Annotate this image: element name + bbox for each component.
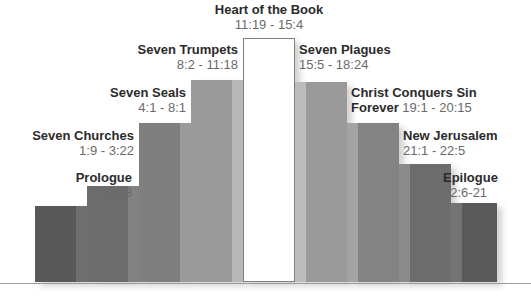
label-seven-seals: Seven Seals 4:1 - 8:1 <box>10 85 186 116</box>
label-epilogue: Epilogue 22:6-21 <box>443 170 531 201</box>
bar-highlight-stripe <box>295 82 306 282</box>
label-christ-conquers-sin-forever: Christ Conquers Sin Forever 19:1 - 20:15 <box>351 85 531 116</box>
bar-highlight-stripe <box>399 164 410 282</box>
label-seven-trumpets-title: Seven Trumpets <box>20 42 238 57</box>
bar-seven-seals <box>139 123 191 282</box>
bar-highlight-stripe <box>347 123 358 282</box>
label-seven-churches-title: Seven Churches <box>0 128 134 143</box>
label-christ-conquers-sin-title: Christ Conquers Sin <box>351 85 531 100</box>
label-seven-seals-title: Seven Seals <box>10 85 186 100</box>
label-seven-seals-ref: 4:1 - 8:1 <box>10 100 186 115</box>
label-seven-plagues-title: Seven Plagues <box>299 42 499 57</box>
bar-highlight-stripe <box>76 206 87 282</box>
bar-seven-plagues <box>295 82 347 282</box>
bar-body <box>243 38 295 282</box>
label-christ-conquers-sin-ref: 19:1 - 20:15 <box>402 100 471 115</box>
chart-baseline <box>0 283 531 284</box>
label-seven-churches-ref: 1:9 - 3:22 <box>0 143 134 158</box>
label-seven-churches: Seven Churches 1:9 - 3:22 <box>0 128 134 159</box>
label-prologue: Prologue 1:1-8 <box>0 170 132 201</box>
chiasm-chart: Prologue 1:1-8 Seven Churches 1:9 - 3:22… <box>0 0 531 299</box>
label-seven-trumpets-ref: 8:2 - 11:18 <box>20 57 238 72</box>
label-epilogue-title: Epilogue <box>443 170 531 185</box>
label-heart-of-the-book-title: Heart of the Book <box>189 2 349 17</box>
label-heart-of-the-book: Heart of the Book 11:19 - 15:4 <box>189 2 349 33</box>
label-christ-conquers-sin-forever-word: Forever <box>351 100 399 115</box>
bar-heart-of-the-book <box>243 38 295 282</box>
bar-seven-trumpets <box>191 80 243 282</box>
bar-christ-conquers-sin <box>347 123 399 282</box>
label-seven-plagues: Seven Plagues 15:5 - 18:24 <box>299 42 499 73</box>
bar-highlight-stripe <box>451 203 462 282</box>
label-seven-trumpets: Seven Trumpets 8:2 - 11:18 <box>20 42 238 73</box>
bar-highlight-stripe <box>232 80 243 282</box>
bar-prologue <box>35 206 87 282</box>
label-seven-plagues-ref: 15:5 - 18:24 <box>299 57 499 72</box>
label-heart-of-the-book-ref: 11:19 - 15:4 <box>189 17 349 32</box>
bar-highlight-stripe <box>180 123 191 282</box>
label-christ-conquers-sin-line2: Forever 19:1 - 20:15 <box>351 100 531 115</box>
label-prologue-title: Prologue <box>0 170 132 185</box>
label-new-jerusalem-title: New Jerusalem <box>403 128 531 143</box>
label-prologue-ref: 1:1-8 <box>0 185 132 200</box>
label-new-jerusalem-ref: 21:1 - 22:5 <box>403 143 531 158</box>
label-epilogue-ref: 22:6-21 <box>443 185 531 200</box>
bar-epilogue <box>451 203 497 282</box>
label-new-jerusalem: New Jerusalem 21:1 - 22:5 <box>403 128 531 159</box>
